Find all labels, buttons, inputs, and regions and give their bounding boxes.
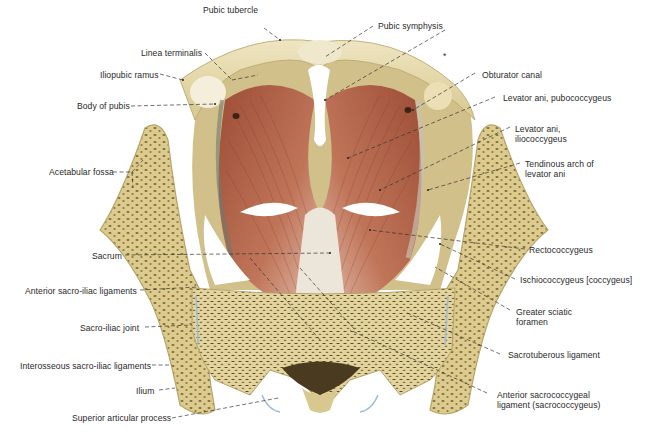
label-pubic-symphysis: Pubic symphysis xyxy=(378,21,443,31)
label-superior-articular-process: Superior articular process xyxy=(72,413,171,423)
label-line: Greater sciatic xyxy=(516,307,572,317)
label-line: iliococcygeus xyxy=(515,134,567,144)
label-line: Anterior sacrococcygeal xyxy=(497,390,600,400)
label-tendinous-arch: Tendinous arch of levator ani xyxy=(525,159,594,179)
label-anterior-sacrococcygeal-ligament: Anterior sacrococcygeal ligament (sacroc… xyxy=(497,390,600,410)
label-iliopubic-ramus: Iliopubic ramus xyxy=(100,70,159,80)
label-asterisk: * xyxy=(443,51,446,61)
label-ilium: Ilium xyxy=(136,386,154,396)
anatomy-drawing xyxy=(0,0,647,446)
label-levator-ani-pubococcygeus: Levator ani, pubococcygeus xyxy=(503,93,611,103)
label-obturator-canal: Obturator canal xyxy=(482,70,542,80)
label-pubic-tubercle: Pubic tubercle xyxy=(203,5,258,15)
label-line: ligament (sacrococcygeus) xyxy=(497,400,600,410)
label-sacrum: Sacrum xyxy=(92,251,122,261)
label-ischiococcygeus: Ischiococcygeus [coccygeus] xyxy=(520,275,632,285)
label-sacro-iliac-joint: Sacro-iliac joint xyxy=(80,323,139,333)
label-acetabular-fossa: Acetabular fossa xyxy=(49,167,114,177)
label-line: levator ani xyxy=(525,169,594,179)
label-levator-ani-iliococcygeus: Levator ani, iliococcygeus xyxy=(515,124,567,144)
label-sacrotuberous-ligament: Sacrotuberous ligament xyxy=(508,350,600,360)
label-body-of-pubis: Body of pubis xyxy=(77,101,130,111)
label-line: foramen xyxy=(516,317,572,327)
label-greater-sciatic-foramen: Greater sciatic foramen xyxy=(516,307,572,327)
pelvic-floor-illustration: Pubic tubercle Linea terminalis Iliopubi… xyxy=(0,0,647,446)
label-line: Tendinous arch of xyxy=(525,159,594,169)
label-line: Levator ani, xyxy=(515,124,567,134)
label-interosseous-sacro-iliac-ligaments: Interosseous sacro-iliac ligaments xyxy=(20,361,151,371)
label-linea-terminalis: Linea terminalis xyxy=(141,48,202,58)
label-rectococcygeus: Rectococcygeus xyxy=(529,245,593,255)
label-anterior-sacro-iliac-ligaments: Anterior sacro-iliac ligaments xyxy=(25,286,137,296)
